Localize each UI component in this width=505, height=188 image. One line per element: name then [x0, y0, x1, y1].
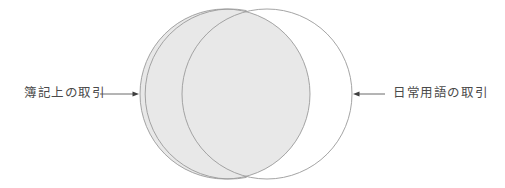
arrowhead-left-icon — [133, 91, 140, 96]
venn-diagram-figure: 簿記上の取引 日常用語の取引 — [0, 0, 505, 188]
venn-circle-everyday-language — [182, 9, 352, 179]
arrowhead-right-icon — [353, 91, 360, 96]
venn-label-everyday-language: 日常用語の取引 — [393, 87, 488, 100]
venn-label-bookkeeping: 簿記上の取引 — [24, 87, 106, 100]
